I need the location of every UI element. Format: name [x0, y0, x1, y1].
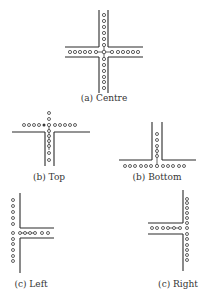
dots-vertical: [12, 199, 15, 263]
caption-left: (c) Left: [14, 279, 47, 289]
panel-left: [12, 193, 55, 273]
caption-bottom: (b) Bottom: [133, 172, 182, 182]
caption-centre: (a) Centre: [81, 93, 128, 103]
dots-horizontal: [68, 50, 139, 54]
panel-top: [12, 112, 90, 167]
panel-right: [148, 190, 189, 271]
dots-horizontal: [124, 164, 186, 167]
dots-vertical: [48, 112, 51, 162]
dots-horizontal: [23, 123, 77, 126]
panel-bottom: [119, 122, 196, 168]
dots-horizontal: [19, 232, 50, 235]
panel-centre: [65, 10, 143, 93]
dots-vertical: [186, 198, 189, 262]
junction-diagram: [0, 0, 208, 299]
caption-right: (c) Right: [158, 279, 198, 289]
caption-top: (b) Top: [33, 172, 65, 182]
